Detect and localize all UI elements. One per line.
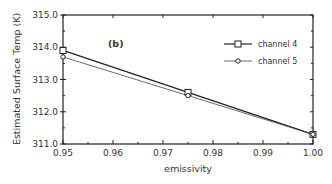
legend-label-channel-4: channel 4 bbox=[258, 40, 297, 49]
legend-label-channel-5: channel 5 bbox=[258, 57, 297, 66]
square-marker-icon bbox=[60, 47, 66, 53]
x-tick-label: 0.99 bbox=[253, 148, 273, 158]
x-axis-ticks: 0.950.960.970.980.991.00 bbox=[53, 15, 323, 158]
panel-label: (b) bbox=[108, 38, 123, 49]
y-tick-label: 314.0 bbox=[32, 42, 58, 52]
y-tick-label: 315.0 bbox=[32, 10, 58, 20]
y-axis-ticks: 311.0312.0313.0314.0315.0 bbox=[32, 10, 313, 149]
x-tick-label: 0.97 bbox=[153, 148, 173, 158]
circle-marker-icon bbox=[311, 132, 315, 136]
circle-marker-icon bbox=[61, 55, 65, 59]
circle-marker-icon bbox=[186, 93, 190, 97]
y-tick-label: 313.0 bbox=[32, 75, 58, 85]
circle-marker-icon bbox=[236, 59, 240, 63]
x-tick-label: 0.95 bbox=[53, 148, 73, 158]
x-tick-label: 1.00 bbox=[303, 148, 323, 158]
y-axis-label: Estimated Surface Temp (K) bbox=[11, 13, 22, 145]
square-marker-icon bbox=[235, 41, 241, 47]
x-tick-label: 0.98 bbox=[203, 148, 223, 158]
plot-area bbox=[63, 15, 313, 144]
y-tick-label: 312.0 bbox=[32, 107, 58, 117]
x-tick-label: 0.96 bbox=[103, 148, 123, 158]
x-axis-label: emissivity bbox=[164, 163, 212, 174]
chart: 311.0312.0313.0314.0315.0 0.950.960.970.… bbox=[0, 0, 332, 184]
legend: channel 4 channel 5 bbox=[224, 40, 297, 66]
